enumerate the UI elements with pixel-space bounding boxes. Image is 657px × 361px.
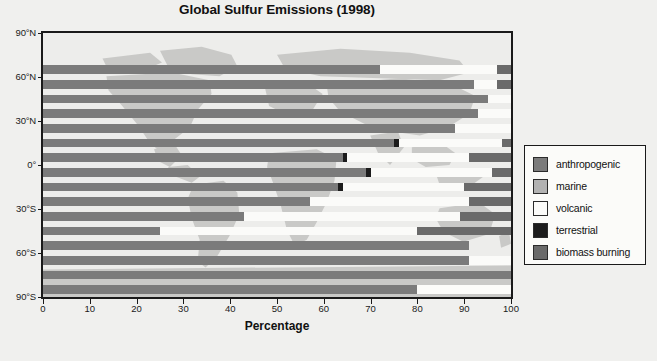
legend-item-marine: marine [533, 175, 645, 197]
bar-row [43, 124, 511, 133]
y-axis-tick-label: 30°S [0, 203, 36, 214]
bar-row [43, 95, 511, 104]
legend-label: biomass burning [556, 246, 630, 258]
x-axis-tick-mark [43, 299, 44, 304]
legend-swatch-icon [533, 157, 548, 172]
bar-segment-biomass-burning [460, 212, 511, 221]
chart-title: Global Sulfur Emissions (1998) [41, 2, 513, 17]
bar-row [43, 285, 511, 294]
bar-segment-volcanic [347, 153, 469, 162]
bar-row [43, 51, 511, 60]
bar-segment-volcanic [371, 168, 493, 177]
bar-segment-volcanic [474, 80, 497, 89]
x-axis-tick-label: 60 [309, 303, 339, 314]
bar-segment-volcanic [380, 65, 497, 74]
bar-row [43, 212, 511, 221]
x-axis-tick-label: 20 [122, 303, 152, 314]
bar-segment-biomass-burning [492, 168, 511, 177]
legend-swatch-icon [533, 179, 548, 194]
bar-segment-biomass-burning [497, 65, 511, 74]
bar-row [43, 227, 511, 236]
bar-segment-anthropogenic [43, 241, 469, 250]
x-axis-tick-mark [277, 299, 278, 304]
bar-segment-anthropogenic [43, 168, 366, 177]
x-axis-label: Percentage [41, 319, 513, 333]
bar-segment-volcanic [469, 256, 511, 265]
legend-label: marine [556, 180, 587, 192]
y-axis-tick-label: 30°N [0, 115, 36, 126]
x-axis-tick-mark [230, 299, 231, 304]
x-axis-tick-label: 40 [215, 303, 245, 314]
bar-segment-anthropogenic [43, 212, 244, 221]
x-axis-tick-label: 100 [496, 303, 526, 314]
bar-row [43, 183, 511, 192]
x-axis-tick-mark [137, 299, 138, 304]
y-axis-tick-label: 90°N [0, 27, 36, 38]
legend-item-anthropogenic: anthropogenic [533, 153, 645, 175]
bar-row [43, 80, 511, 89]
legend-swatch-icon [533, 201, 548, 216]
bar-row [43, 109, 511, 118]
bar-segment-volcanic [343, 183, 465, 192]
bar-row [43, 36, 511, 45]
legend-label: anthropogenic [556, 158, 620, 170]
bar-segment-biomass-burning [469, 197, 511, 206]
bar-row [43, 168, 511, 177]
bar-segment-volcanic [478, 109, 511, 118]
bar-segment-anthropogenic [43, 153, 343, 162]
bar-segment-volcanic [399, 139, 502, 148]
legend-swatch-icon [533, 245, 548, 260]
x-axis-tick-mark [464, 299, 465, 304]
bar-segment-anthropogenic [43, 227, 160, 236]
chart-figure: Global Sulfur Emissions (1998) 90°N60°N3… [0, 0, 657, 361]
x-axis-tick-mark [183, 299, 184, 304]
x-axis-tick-label: 50 [262, 303, 292, 314]
legend-item-volcanic: volcanic [533, 197, 645, 219]
legend-label: volcanic [556, 202, 592, 214]
x-axis-tick-label: 90 [449, 303, 479, 314]
bar-segment-anthropogenic [43, 139, 394, 148]
legend-item-terrestrial: terrestrial [533, 219, 645, 241]
bar-segment-volcanic [244, 212, 459, 221]
bar-segment-biomass-burning [469, 153, 511, 162]
y-axis-tick-label: 60°N [0, 71, 36, 82]
bar-segment-anthropogenic [43, 65, 380, 74]
bar-segment-anthropogenic [43, 124, 455, 133]
bar-segment-anthropogenic [43, 197, 310, 206]
x-axis-tick-label: 30 [168, 303, 198, 314]
plot-area [41, 31, 513, 299]
bar-segment-anthropogenic [43, 285, 417, 294]
x-axis-tick-mark [324, 299, 325, 304]
bar-row [43, 197, 511, 206]
bar-segment-biomass-burning [497, 80, 511, 89]
x-axis-tick-label: 10 [75, 303, 105, 314]
bar-segment-volcanic [455, 124, 511, 133]
x-axis-tick-label: 80 [402, 303, 432, 314]
x-axis-tick-label: 70 [356, 303, 386, 314]
bar-segment-anthropogenic [43, 256, 469, 265]
bar-segment-biomass-burning [502, 139, 511, 148]
chart-legend: anthropogenicmarinevolcanicterrestrialbi… [524, 145, 646, 265]
legend-swatch-icon [533, 223, 548, 238]
bar-segment-biomass-burning [417, 227, 511, 236]
y-axis-tick-label: 60°S [0, 247, 36, 258]
bar-segment-volcanic [160, 227, 417, 236]
bar-segment-anthropogenic [43, 271, 511, 280]
x-axis-tick-mark [511, 299, 512, 304]
x-axis-tick-mark [371, 299, 372, 304]
bar-row [43, 271, 511, 280]
bar-segment-biomass-burning [464, 183, 511, 192]
bar-row [43, 153, 511, 162]
bar-row [43, 256, 511, 265]
y-axis-tick-label: 0° [0, 159, 36, 170]
bar-segment-anthropogenic [43, 80, 474, 89]
y-axis-tick-label: 90°S [0, 291, 36, 302]
stacked-bars [43, 33, 511, 297]
bar-segment-anthropogenic [43, 183, 338, 192]
legend-label: terrestrial [556, 224, 598, 236]
bar-row [43, 241, 511, 250]
bar-segment-volcanic [310, 197, 469, 206]
x-axis-tick-mark [90, 299, 91, 304]
x-axis-tick-label: 0 [28, 303, 58, 314]
bar-segment-volcanic [488, 95, 511, 104]
